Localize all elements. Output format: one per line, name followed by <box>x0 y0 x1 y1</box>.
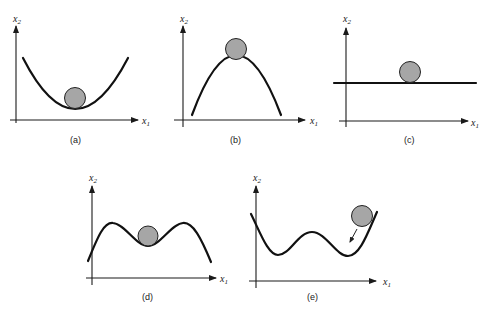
ball <box>226 39 247 60</box>
caption-e: (e) <box>307 292 318 302</box>
panel-e: x2 x1 (e) <box>249 172 391 302</box>
y-axis-label: x2 <box>12 13 21 26</box>
ball <box>352 206 373 227</box>
ball <box>65 88 86 109</box>
x-axis-label: x1 <box>141 115 150 128</box>
panel-a: x2 x1 (a) <box>10 13 150 145</box>
panel-b: x2 x1 (b) <box>174 13 318 145</box>
x-axis-label: x1 <box>382 276 391 289</box>
motion-arrow <box>350 229 357 242</box>
y-axis-label: x2 <box>88 172 97 185</box>
ball <box>400 62 421 83</box>
panel-c: x2 x1 (c) <box>334 13 479 145</box>
ball <box>138 226 158 246</box>
caption-c: (c) <box>404 135 415 145</box>
y-axis-label: x2 <box>342 13 351 26</box>
caption-a: (a) <box>70 135 81 145</box>
x-axis-label: x1 <box>470 117 479 130</box>
y-axis-label: x2 <box>179 13 188 26</box>
caption-d: (d) <box>142 292 153 302</box>
x-axis-label: x1 <box>309 115 318 128</box>
equilibrium-figure: x2 x1 (a) x2 x1 (b) x2 x1 (c) x2 x1 (d) <box>0 0 487 311</box>
panel-d: x2 x1 (d) <box>86 172 228 302</box>
caption-b: (b) <box>230 135 241 145</box>
hill-curve <box>192 55 281 115</box>
y-axis-label: x2 <box>252 172 261 185</box>
x-axis-label: x1 <box>219 273 228 286</box>
